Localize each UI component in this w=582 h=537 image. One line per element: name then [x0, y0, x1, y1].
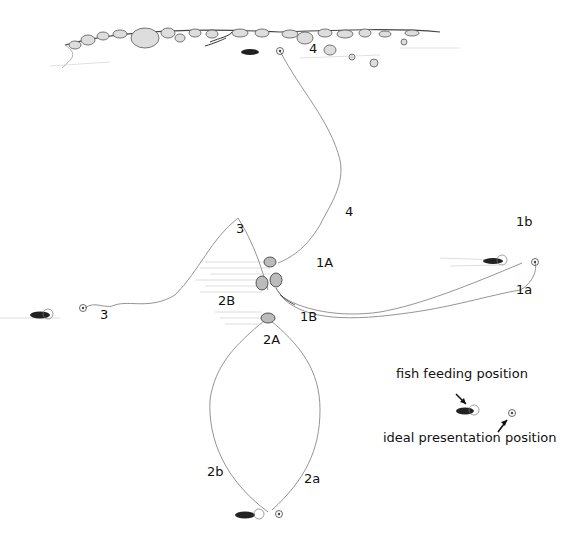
legend-ideal-presentation: ideal presentation position — [383, 430, 556, 445]
fish-bottom — [235, 509, 283, 519]
label-1B: 1B — [300, 310, 317, 323]
label-2B: 2B — [218, 294, 235, 307]
line-1a-lower — [280, 263, 536, 318]
label-1b: 1b — [516, 215, 533, 228]
line-4 — [278, 51, 341, 263]
label-4-top: 4 — [309, 42, 317, 55]
fly-cluster — [256, 257, 295, 323]
fish-right — [483, 255, 539, 266]
diagram-canvas: 4 4 3 3 1A 1B 1a 1b 2A 2B 2a 2b fish fee… — [0, 0, 582, 537]
label-1a: 1a — [516, 283, 532, 296]
line-2b — [210, 320, 268, 512]
riverbank — [50, 28, 460, 68]
line-1a-upper — [280, 263, 522, 314]
legend-fish-feeding: fish feeding position — [396, 366, 528, 381]
label-1A: 1A — [316, 256, 333, 269]
diagram-svg — [0, 0, 582, 537]
legend-icons — [456, 394, 516, 432]
label-3-left: 3 — [100, 308, 108, 321]
fish-left — [30, 305, 87, 320]
fish-top — [241, 48, 284, 56]
fish-feeding-icon — [456, 408, 474, 415]
current-shading — [0, 258, 500, 324]
label-3-upper: 3 — [236, 222, 244, 235]
line-3-lower — [85, 218, 238, 308]
label-2A: 2A — [263, 333, 280, 346]
label-4-mid: 4 — [345, 205, 353, 218]
label-2a: 2a — [304, 472, 320, 485]
label-2b: 2b — [207, 465, 224, 478]
